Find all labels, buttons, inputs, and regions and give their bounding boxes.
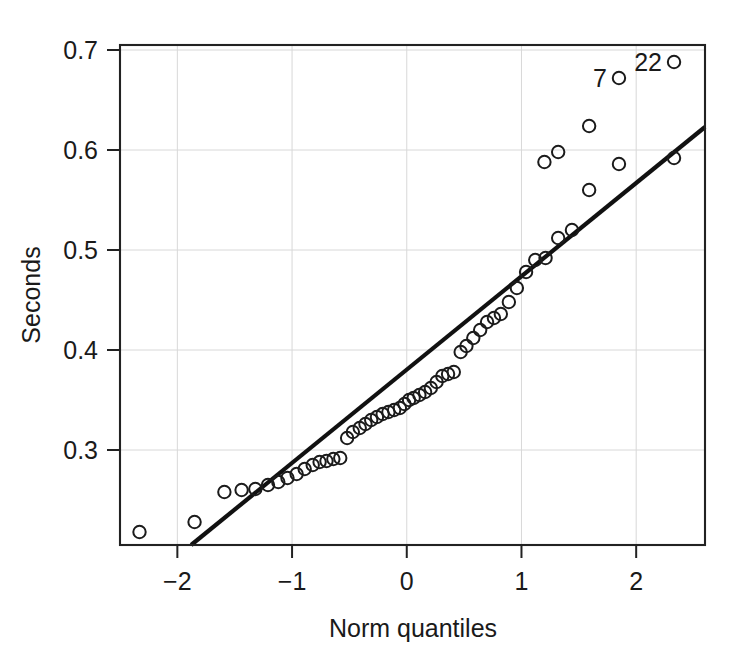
data-point xyxy=(467,332,479,344)
qq-plot-canvas: −2−1012 0.30.40.50.60.7 722 Norm quantil… xyxy=(0,0,741,658)
y-axis-label: Seconds xyxy=(17,246,45,343)
x-tick-label: 0 xyxy=(400,567,414,595)
x-tick-label: −1 xyxy=(278,567,307,595)
data-point xyxy=(538,156,550,168)
x-tick-label: 1 xyxy=(515,567,529,595)
outlier-label-22: 22 xyxy=(634,48,662,76)
reference-line xyxy=(191,127,705,545)
data-point xyxy=(133,526,145,538)
data-point-outlier xyxy=(613,72,625,84)
x-axis-label: Norm quantiles xyxy=(329,614,497,642)
outlier-labels: 722 xyxy=(593,48,662,92)
data-point xyxy=(583,120,595,132)
x-tick-label: −2 xyxy=(163,567,192,595)
qq-plot-figure: −2−1012 0.30.40.50.60.7 722 Norm quantil… xyxy=(0,0,741,658)
data-point xyxy=(188,516,200,528)
gridlines xyxy=(120,45,705,545)
y-tick-label: 0.5 xyxy=(63,236,98,264)
y-tick-label: 0.4 xyxy=(63,336,98,364)
data-point-outlier xyxy=(668,56,680,68)
tick-marks xyxy=(107,50,636,558)
data-point xyxy=(235,484,247,496)
plot-frame xyxy=(120,45,705,545)
outlier-label-7: 7 xyxy=(593,64,607,92)
y-tick-label: 0.3 xyxy=(63,436,98,464)
y-tick-label: 0.6 xyxy=(63,136,98,164)
y-tick-label: 0.7 xyxy=(63,36,98,64)
data-point xyxy=(503,296,515,308)
data-point xyxy=(218,486,230,498)
data-point xyxy=(552,232,564,244)
data-point xyxy=(474,324,486,336)
data-point xyxy=(613,158,625,170)
axis-frame xyxy=(120,45,705,545)
x-tick-labels: −2−1012 xyxy=(163,567,643,595)
data-point xyxy=(583,184,595,196)
y-tick-labels: 0.30.40.50.60.7 xyxy=(63,36,98,464)
data-point xyxy=(552,146,564,158)
qq-reference-line xyxy=(191,127,705,545)
x-tick-label: 2 xyxy=(629,567,643,595)
